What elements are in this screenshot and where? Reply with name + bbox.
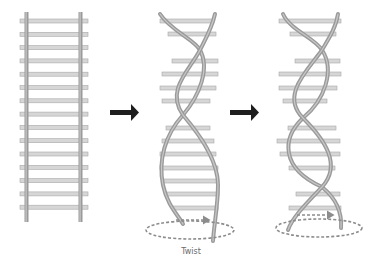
ladder-rung bbox=[20, 86, 88, 90]
ladder-rung bbox=[20, 139, 88, 143]
ladder-rungs bbox=[20, 19, 88, 209]
twist-indicator bbox=[146, 220, 234, 239]
ladder-rung bbox=[20, 192, 88, 196]
ladder-rung bbox=[20, 59, 88, 63]
ladder-rung bbox=[20, 32, 88, 36]
dna-twist-diagram bbox=[0, 0, 377, 272]
ladder-rung bbox=[20, 125, 88, 129]
ladder-rung bbox=[20, 99, 88, 103]
right-arrow-icon bbox=[110, 104, 139, 121]
partial-twist-helix bbox=[146, 14, 234, 241]
ladder-rung bbox=[20, 112, 88, 116]
helix-strands bbox=[283, 14, 341, 230]
dashed-ellipse bbox=[146, 221, 234, 239]
ladder-rung bbox=[20, 72, 88, 76]
ladder-rung bbox=[20, 205, 88, 209]
straight-ladder bbox=[20, 12, 88, 222]
ladder-rung bbox=[20, 19, 88, 23]
double-helix bbox=[276, 14, 362, 237]
ladder-rails bbox=[25, 12, 83, 222]
ladder-rung bbox=[20, 152, 88, 156]
helix-rungs bbox=[160, 19, 219, 210]
ladder-rung bbox=[20, 46, 88, 50]
ladder-rung bbox=[20, 165, 88, 169]
twist-label: Twist bbox=[181, 247, 201, 256]
right-arrow-icon bbox=[230, 104, 259, 121]
ladder-rung bbox=[20, 179, 88, 183]
